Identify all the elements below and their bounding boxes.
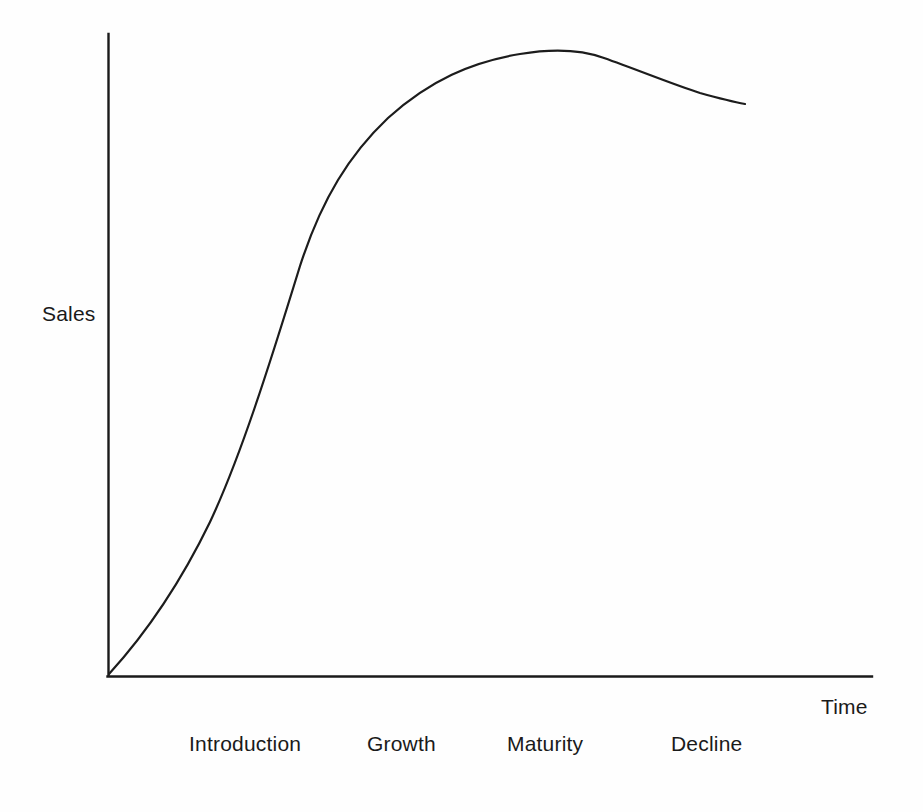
stage-label-growth: Growth	[367, 733, 436, 755]
stage-label-decline: Decline	[671, 733, 742, 755]
sales-curve-path	[109, 51, 745, 674]
y-axis-label: Sales	[42, 303, 96, 325]
chart-canvas	[0, 0, 923, 812]
stage-label-introduction: Introduction	[189, 733, 301, 755]
product-life-cycle-chart: Sales Time Introduction Growth Maturity …	[0, 0, 923, 812]
stage-label-maturity: Maturity	[507, 733, 583, 755]
x-axis-label: Time	[821, 696, 868, 718]
